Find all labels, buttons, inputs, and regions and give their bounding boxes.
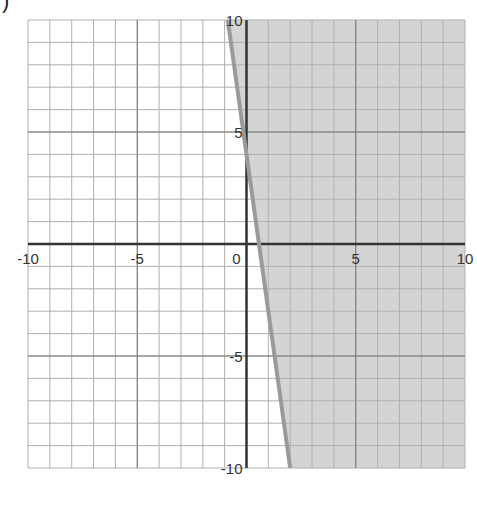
- x-tick-label: 10: [457, 250, 474, 267]
- y-tick-label: 10: [226, 12, 243, 29]
- inequality-graph: -10-50510105-5-10: [0, 0, 477, 505]
- y-tick-label: 5: [234, 124, 242, 141]
- y-tick-label: -5: [229, 348, 242, 365]
- x-tick-label: 5: [352, 250, 360, 267]
- y-tick-label: -10: [221, 460, 243, 477]
- x-tick-label: 0: [232, 250, 240, 267]
- x-tick-label: -5: [131, 250, 144, 267]
- x-tick-label: -10: [17, 250, 39, 267]
